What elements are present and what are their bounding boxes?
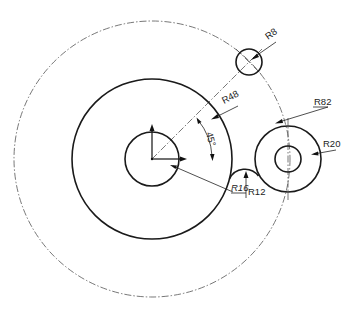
dimension-angle-45: 45° [197, 118, 219, 162]
dimension-r48: R48 [211, 88, 240, 120]
axis-up-arrow-icon [150, 124, 155, 131]
angle-label: 45° [204, 131, 218, 148]
r20-arrow-icon [311, 152, 319, 156]
r12-label: R12 [248, 186, 265, 197]
dimension-r16: R16 [170, 165, 249, 193]
dimension-r82: R82 [275, 96, 331, 124]
dimension-r8: R8 [251, 26, 279, 60]
r16-arrow-icon [170, 165, 177, 169]
r16-label: R16 [231, 182, 249, 193]
technical-drawing: R8 R48 45° R82 R20 R16 R12 [0, 0, 353, 312]
r48-arrow-icon [211, 114, 219, 120]
r12-arrow-icon [244, 171, 249, 178]
r8-label: R8 [263, 26, 279, 42]
axis-right-arrow-icon [180, 157, 187, 162]
r48-label: R48 [220, 88, 241, 106]
r82-label: R82 [314, 96, 331, 107]
r82-arrow-icon [275, 119, 283, 124]
angle-arrow-bottom-icon [210, 154, 215, 161]
r20-label: R20 [323, 138, 340, 149]
